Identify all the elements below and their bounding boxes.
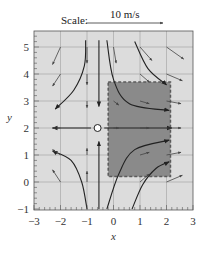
x-tick-label: −2 <box>55 215 67 227</box>
scale-label: Scale: <box>61 14 88 26</box>
x-tick-label: −3 <box>28 215 40 227</box>
x-axis-label: x <box>110 230 116 242</box>
y-tick-label: −1 <box>17 203 29 215</box>
y-tick-label: 0 <box>24 176 30 188</box>
y-tick-labels: −1012345 <box>17 41 29 215</box>
y-tick-label: 1 <box>24 149 30 161</box>
x-tick-label: 0 <box>111 215 117 227</box>
y-axis-label: y <box>6 111 12 123</box>
y-tick-label: 5 <box>24 41 30 53</box>
x-tick-label: 3 <box>190 215 196 227</box>
stagnation-point-marker <box>94 125 101 132</box>
x-tick-label: −1 <box>81 215 93 227</box>
scale-value-label: 10 m/s <box>110 8 140 20</box>
shaded-region <box>108 82 170 177</box>
y-tick-label: 4 <box>24 68 30 80</box>
velocity-field-diagram: Scale: 10 m/s −3−2−10123 −1012345 x y <box>0 0 206 253</box>
x-tick-label: 2 <box>164 215 170 227</box>
y-tick-label: 2 <box>24 122 30 134</box>
x-tick-labels: −3−2−10123 <box>28 215 196 227</box>
scale-legend: Scale: 10 m/s <box>61 8 163 26</box>
y-tick-label: 3 <box>24 95 30 107</box>
x-tick-label: 1 <box>137 215 143 227</box>
